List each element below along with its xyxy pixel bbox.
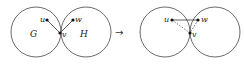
left-configuration: u w v G H bbox=[11, 7, 111, 57]
label-v: v bbox=[192, 30, 197, 39]
vertex-u bbox=[170, 18, 173, 21]
label-w: w bbox=[201, 15, 208, 24]
label-h: H bbox=[79, 29, 88, 39]
label-u: u bbox=[40, 15, 45, 24]
vertex-u bbox=[45, 18, 48, 21]
vertex-w bbox=[196, 18, 199, 21]
graph-splitting-diagram: u w v G H → u w v bbox=[0, 0, 244, 64]
edge-u-v bbox=[47, 20, 60, 33]
transform-arrow: → bbox=[115, 27, 123, 38]
circle-right bbox=[190, 7, 240, 57]
label-u: u bbox=[164, 15, 169, 24]
label-v: v bbox=[62, 30, 67, 39]
right-configuration: u w v bbox=[140, 7, 240, 57]
label-w: w bbox=[75, 15, 82, 24]
edge-u-v-dashed bbox=[172, 20, 190, 33]
label-g: G bbox=[30, 29, 37, 39]
